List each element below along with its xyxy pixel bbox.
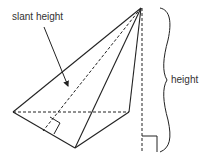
pyramid-diagram: slant height height [0,0,209,165]
pyramid-dashed-lines [13,8,142,152]
slant-height-label: slant height [12,12,63,22]
slant-right-angle-marker [50,117,60,134]
height-label: height [171,75,198,85]
height-brace [160,8,170,152]
height-right-angle-marker [142,136,157,152]
pyramid-solid-edges [13,8,141,148]
